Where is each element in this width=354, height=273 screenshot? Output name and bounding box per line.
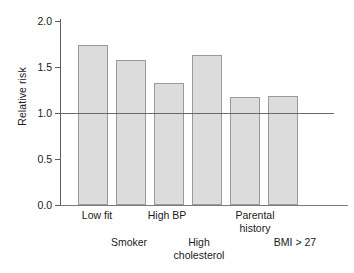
y-tick-container-3: 1.5 <box>20 62 52 73</box>
bar-1 <box>116 60 146 205</box>
y-tick-label-0: 0.0 <box>26 200 52 210</box>
bar-0 <box>78 45 108 205</box>
y-tick-label-1: 0.5 <box>26 154 52 164</box>
y-tick-container-4: 2.0 <box>20 16 52 27</box>
x-label-high-cholesterol: High cholesterol <box>166 236 232 261</box>
bar-chart-figure: Relative risk 0.0 0.5 1.0 1.5 2.0 Low fi… <box>0 0 354 273</box>
x-label-high-bp: High BP <box>130 209 204 221</box>
y-tick-container-0: 0.0 <box>20 200 52 211</box>
bar-2 <box>154 83 184 205</box>
y-tick-label-2: 1.0 <box>26 108 52 118</box>
x-label-parental-history: Parental history <box>225 209 285 234</box>
y-tick-label-4: 2.0 <box>26 16 52 26</box>
y-tick-container-1: 0.5 <box>20 154 52 165</box>
x-axis-line <box>60 205 348 206</box>
y-axis-title: Relative risk <box>16 0 32 209</box>
y-tick-label-3: 1.5 <box>26 62 52 72</box>
y-tick-container-2: 1.0 <box>20 108 52 119</box>
y-axis-title-container: Relative risk <box>0 0 30 273</box>
x-label-smoker: Smoker <box>92 236 166 248</box>
x-label-bmi-over-27: BMI > 27 <box>258 236 332 248</box>
bar-3 <box>192 55 222 205</box>
x-label-low-fit: Low fit <box>60 209 134 221</box>
reference-line-1.0 <box>60 113 334 114</box>
